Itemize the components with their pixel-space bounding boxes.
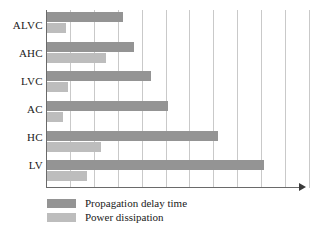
category-label-3: AC (0, 103, 43, 115)
legend-swatch-power (47, 213, 76, 222)
category-label-5: LV (0, 159, 43, 171)
bar-group-alvc (46, 10, 309, 40)
bar-hc-power (46, 142, 101, 152)
category-axis-labels: ALVC AHC LVC AC HC LV (0, 10, 43, 188)
bar-alvc-delay (46, 12, 123, 22)
plot-area (46, 10, 309, 188)
bar-lvc-delay (46, 71, 151, 81)
bar-ahc-power (46, 53, 106, 63)
bar-chart: ALVC AHC LVC AC HC LV Propagation delay … (0, 0, 319, 233)
bar-ac-delay (46, 101, 168, 111)
bar-group-ahc (46, 40, 309, 70)
bar-group-ac (46, 99, 309, 129)
bar-group-lvc (46, 69, 309, 99)
category-label-1: AHC (0, 47, 43, 59)
y-axis-line (46, 10, 47, 188)
legend-item-power: Power dissipation (47, 210, 187, 224)
legend: Propagation delay time Power dissipation (47, 196, 187, 224)
bar-ahc-delay (46, 42, 134, 52)
bar-group-lv (46, 158, 309, 188)
x-axis-line (46, 187, 301, 188)
category-label-2: LVC (0, 75, 43, 87)
gridline-11 (309, 10, 310, 188)
bar-lvc-power (46, 82, 68, 92)
category-label-0: ALVC (0, 19, 43, 31)
bar-hc-delay (46, 131, 218, 141)
legend-swatch-delay (47, 199, 76, 208)
bar-group-hc (46, 129, 309, 159)
bar-lv-power (46, 171, 87, 181)
bar-ac-power (46, 112, 63, 122)
category-label-4: HC (0, 131, 43, 143)
arrow-right-icon (299, 183, 306, 191)
legend-label-power: Power dissipation (85, 211, 164, 223)
legend-item-delay: Propagation delay time (47, 196, 187, 210)
legend-label-delay: Propagation delay time (85, 197, 187, 209)
bar-lv-delay (46, 160, 264, 170)
bar-alvc-power (46, 23, 66, 33)
